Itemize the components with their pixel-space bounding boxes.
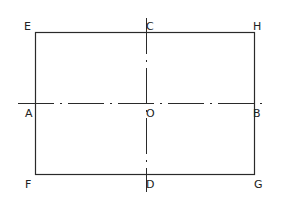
label-F: F (25, 178, 31, 191)
label-E: E (24, 20, 31, 33)
label-C: C (146, 20, 154, 33)
diagram-canvas: E C H A O B F D G (0, 0, 284, 209)
label-A: A (25, 107, 33, 120)
label-G: G (254, 178, 263, 191)
label-H: H (253, 20, 261, 33)
label-O: O (146, 107, 155, 120)
label-B: B (253, 107, 261, 120)
label-D: D (146, 178, 154, 191)
